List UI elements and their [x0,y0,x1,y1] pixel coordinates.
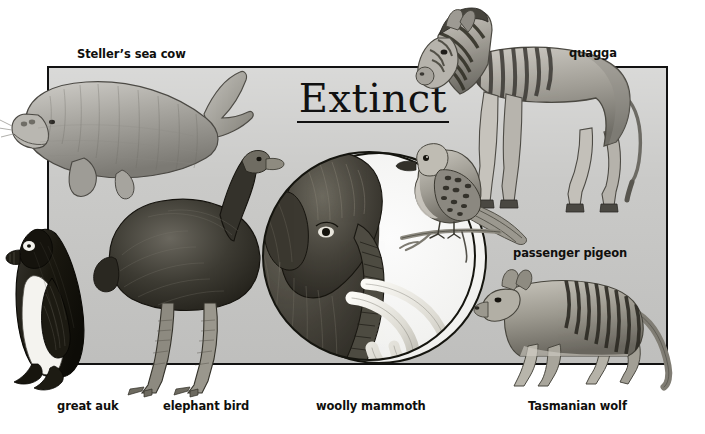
great-auk-illustration [8,212,103,392]
label-passenger-pigeon: passenger pigeon [513,247,627,260]
label-elephant-bird: elephant bird [163,400,249,413]
tasmanian-wolf-illustration [480,262,675,387]
label-woolly-mammoth: woolly mammoth [316,400,426,413]
label-stellers-sea-cow: Steller’s sea cow [77,48,186,61]
label-quagga: quagga [569,47,617,60]
passenger-pigeon-illustration [396,142,528,262]
label-great-auk: great auk [57,400,119,413]
label-tasmanian-wolf: Tasmanian wolf [528,400,627,413]
elephant-bird-illustration [100,145,285,395]
extinct-animals-poster: Extinct [0,0,705,434]
